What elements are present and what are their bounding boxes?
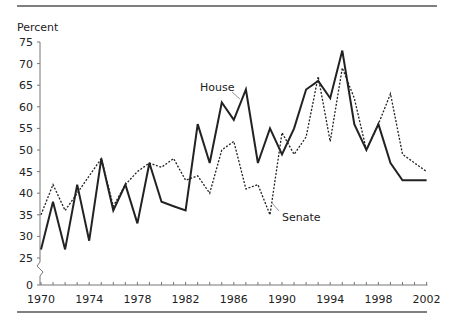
house-label: House [200, 81, 235, 94]
x-tick-label: 1978 [123, 293, 151, 306]
line-chart: Percent 02530354045505560657075 19701974… [0, 0, 454, 327]
y-axis: 02530354045505560657075 [19, 36, 43, 292]
y-tick-label: 65 [19, 79, 33, 92]
x-tick-label: 1998 [364, 293, 392, 306]
y-tick-label: 75 [19, 36, 33, 49]
y-tick-label: 55 [19, 122, 33, 135]
y-tick-label: 30 [19, 230, 33, 243]
y-axis-title: Percent [17, 21, 59, 34]
axis-break-icon [37, 262, 43, 276]
y-tick-label: 70 [19, 58, 33, 71]
y-tick-label: 40 [19, 187, 33, 200]
x-tick-label: 1994 [316, 293, 344, 306]
x-tick-label: 1990 [268, 293, 296, 306]
x-axis: 197019741978198219861990199419982002 [27, 282, 441, 306]
y-tick-label: 50 [19, 144, 33, 157]
x-tick-label: 2002 [413, 293, 441, 306]
senate-label: Senate [282, 211, 321, 224]
x-tick-label: 1970 [27, 293, 55, 306]
y-tick-label: 0 [26, 279, 33, 292]
senate-leader-line [272, 203, 279, 211]
x-tick-label: 1986 [220, 293, 248, 306]
y-tick-label: 60 [19, 101, 33, 114]
y-tick-label: 35 [19, 209, 33, 222]
x-tick-label: 1982 [172, 293, 200, 306]
y-tick-label: 25 [19, 252, 33, 265]
x-tick-label: 1974 [75, 293, 103, 306]
y-tick-label: 45 [19, 166, 33, 179]
